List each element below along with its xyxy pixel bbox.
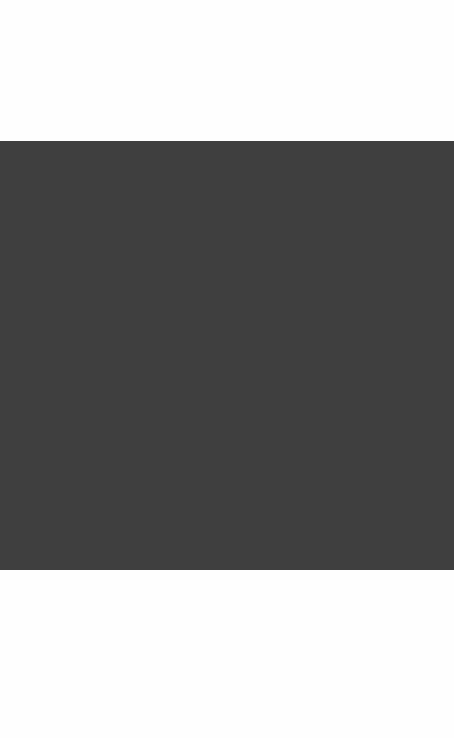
letterbox-top bbox=[0, 0, 454, 141]
panel-viewport[interactable] bbox=[0, 141, 454, 570]
panel-empty-state-label bbox=[0, 141, 454, 570]
letterbox-bottom bbox=[0, 570, 454, 738]
app-frame bbox=[0, 0, 454, 738]
content-panel[interactable] bbox=[0, 141, 454, 570]
